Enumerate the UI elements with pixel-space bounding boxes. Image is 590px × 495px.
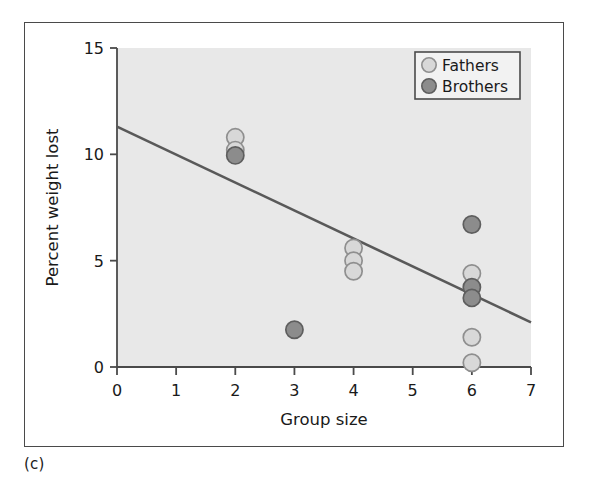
chart-legend: FathersBrothers: [415, 52, 520, 99]
legend-label-fathers: Fathers: [442, 57, 499, 75]
x-tick-label: 7: [526, 381, 536, 400]
legend-marker-fathers: [422, 58, 436, 72]
y-axis-title: Percent weight lost: [43, 128, 62, 286]
x-tick-label: 5: [408, 381, 418, 400]
x-tick-label: 6: [467, 381, 477, 400]
y-tick-label: 5: [94, 252, 104, 271]
y-tick-label: 10: [84, 145, 104, 164]
data-point: [345, 263, 362, 280]
y-tick-label: 0: [94, 358, 104, 377]
x-tick-label: 4: [348, 381, 358, 400]
x-tick-label: 2: [230, 381, 240, 400]
legend-label-brothers: Brothers: [442, 78, 508, 96]
scatter-plot: 05101501234567 Group size Percent weight…: [0, 0, 590, 495]
y-tick-label: 15: [84, 39, 104, 58]
legend-marker-brothers: [422, 79, 436, 93]
x-tick-label: 0: [112, 381, 122, 400]
data-point: [463, 329, 480, 346]
data-point: [463, 216, 480, 233]
x-tick-label: 3: [289, 381, 299, 400]
figure-panel: 05101501234567 Group size Percent weight…: [0, 0, 590, 495]
x-tick-label: 1: [171, 381, 181, 400]
data-point: [227, 147, 244, 164]
data-point: [463, 289, 480, 306]
x-axis-title: Group size: [280, 410, 367, 429]
data-point: [463, 354, 480, 371]
panel-label: (c): [24, 455, 45, 473]
data-point: [286, 321, 303, 338]
